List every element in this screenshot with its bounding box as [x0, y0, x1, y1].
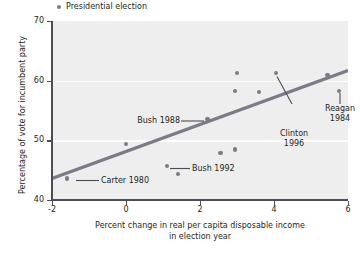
y-tick-50	[47, 140, 51, 141]
x-axis-title: Percent change in real per capita dispos…	[52, 220, 348, 242]
annotation-bush-1992: Bush 1992	[192, 164, 235, 174]
legend-label-presidential-election: Presidential election	[66, 3, 147, 11]
legend-marker-dot	[57, 5, 61, 9]
y-tick-label-50: 50	[34, 136, 44, 144]
y-tick-70	[47, 21, 51, 22]
y-axis-line	[51, 21, 53, 200]
x-axis-title-line2: in election year	[52, 231, 348, 242]
y-axis-title: Percentage of vote for incumbent party	[19, 30, 27, 200]
x-tick-label-2: 2	[197, 206, 202, 214]
annotation-bush-1988: Bush 1988	[135, 116, 180, 126]
data-point	[325, 73, 329, 77]
data-point	[218, 151, 222, 155]
trendline-segment	[52, 70, 348, 178]
annotation-carter-1980: Carter 1980	[101, 176, 149, 186]
scatter-plot-figure: Presidential election 70 60 50 40 -2	[0, 0, 361, 257]
y-tick-label-40: 40	[34, 196, 44, 204]
annotation-reagan-1984: Reagan 1984	[319, 104, 361, 124]
y-tick-40	[47, 200, 51, 201]
data-point	[205, 117, 209, 121]
x-tick-label-0: 0	[123, 206, 128, 214]
y-tick-60	[47, 81, 51, 82]
x-tick-label-4: 4	[271, 206, 276, 214]
annotation-clinton-1996: Clinton 1996	[273, 129, 315, 149]
x-tick-label-6: 6	[345, 206, 350, 214]
y-tick-label-70: 70	[34, 17, 44, 25]
data-point	[65, 176, 69, 180]
chart-legend: Presidential election	[57, 3, 147, 11]
y-tick-label-60: 60	[34, 77, 44, 85]
x-axis-title-line1: Percent change in real per capita dispos…	[52, 220, 348, 231]
x-tick-label-minus2: -2	[48, 206, 56, 214]
data-point	[176, 172, 180, 176]
data-point	[337, 89, 341, 93]
data-point	[233, 147, 237, 151]
